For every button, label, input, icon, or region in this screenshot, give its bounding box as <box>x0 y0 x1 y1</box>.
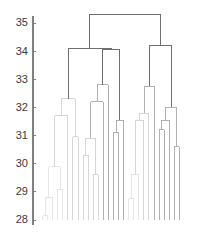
dendrogram-link <box>45 197 53 220</box>
y-axis-tick-label: 33 <box>16 73 28 85</box>
dendrogram-link <box>174 147 179 220</box>
dendrogram-link <box>165 107 176 146</box>
dendrogram-link <box>131 175 139 220</box>
dendrogram-link <box>129 199 134 220</box>
dendrogram-link <box>159 130 164 220</box>
dendrogram-link <box>86 138 96 175</box>
dendrogram-link <box>149 46 171 108</box>
dendrogram-link <box>93 175 98 220</box>
dendrogram-link <box>162 120 170 220</box>
dendrogram-link <box>73 137 78 220</box>
dendrogram-link <box>61 99 75 137</box>
dendrogram-plot: 2829303132333435 <box>0 0 199 239</box>
dendrogram-links <box>43 15 180 220</box>
dendrogram-link <box>135 120 144 220</box>
y-axis-tick-label: 34 <box>16 45 28 57</box>
y-axis-tick-label: 30 <box>16 157 28 169</box>
dendrogram-link <box>55 116 68 220</box>
dendrogram-link <box>113 133 118 220</box>
dendrogram-link <box>83 155 88 220</box>
y-axis-tick-label: 29 <box>16 185 28 197</box>
y-axis-tick-label: 28 <box>16 213 28 225</box>
y-axis-tick-label: 32 <box>16 101 28 113</box>
y-axis-tick-label: 31 <box>16 129 28 141</box>
y-axis-tick-label: 35 <box>16 16 28 28</box>
dendrogram-link <box>68 48 111 99</box>
dendrogram-link <box>116 120 124 220</box>
dendrogram-figure: 2829303132333435 <box>0 0 199 239</box>
dendrogram-link <box>49 167 60 198</box>
dendrogram-link <box>43 216 48 220</box>
dendrogram-link <box>58 189 63 220</box>
dendrogram-link <box>90 15 160 49</box>
y-axis-tick-labels: 2829303132333435 <box>16 16 28 225</box>
dendrogram-link <box>91 102 104 220</box>
